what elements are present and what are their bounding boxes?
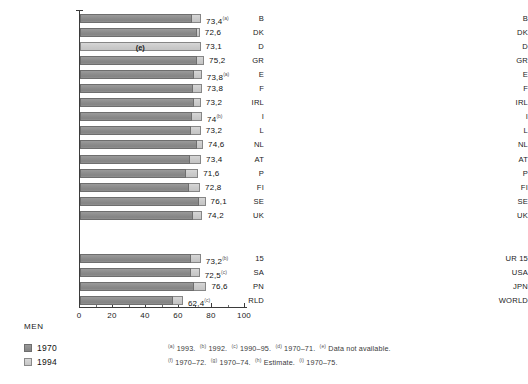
- bar-world: [80, 296, 183, 305]
- bar-segment-1970: [80, 84, 193, 93]
- bar-segment-1970: [80, 155, 190, 164]
- category-label-gr: GR: [189, 55, 528, 66]
- bar-irl: [80, 98, 201, 107]
- bar-nl: [80, 140, 203, 149]
- chart-row: UK79,4: [264, 210, 528, 221]
- x-axis-tick-label-60: 60: [166, 311, 190, 320]
- bar-segment-1970: [80, 169, 186, 178]
- bar-segment-1970: [80, 197, 199, 206]
- bar-segment-1994: (e): [80, 42, 201, 51]
- category-label-jpn: JPN: [189, 281, 528, 292]
- chart-row: L79,7: [264, 125, 528, 136]
- bar-usa: [80, 268, 200, 277]
- chart-row: E81,1(a): [264, 69, 528, 80]
- category-label-fi: FI: [189, 182, 528, 193]
- bar-segment-1970: [80, 112, 192, 121]
- bar-segment-1970: [80, 282, 194, 291]
- chart-row: SE81,4: [264, 196, 528, 207]
- category-label-f: F: [189, 83, 528, 94]
- y-axis-top-cap: [76, 10, 83, 11]
- chart-row: NL80,3: [264, 139, 528, 150]
- legend-label-1970: 1970: [37, 343, 57, 353]
- chart-row: P78,6: [264, 168, 528, 179]
- bar-eur-15: [80, 254, 201, 263]
- category-label-world: WORLD: [189, 295, 528, 306]
- category-label-b: B: [189, 13, 528, 24]
- footnote-f: (f) 1970–72.: [168, 358, 211, 367]
- bar-segment-1970: [80, 70, 194, 79]
- chart-row: B80,1(a): [264, 13, 528, 24]
- chart-row: WORLD66,5(c): [264, 295, 528, 306]
- footnote-d: (d) 1970–71.: [275, 344, 319, 353]
- bar-segment-1970: [80, 211, 193, 220]
- footnote-i: (i) 1970–75.: [299, 358, 339, 367]
- chart-row: USA79,3(d): [264, 267, 528, 278]
- bar-dk: [80, 28, 200, 37]
- bar-segment-1970: [80, 254, 191, 263]
- bar-segment-1970: [80, 28, 197, 37]
- bar-b: [80, 14, 201, 23]
- chart-figure: 020406080100B73,4(a)DK72,6D(e)73,1GR75,2…: [0, 0, 528, 384]
- legend-swatch-1994: [24, 358, 32, 366]
- category-label-p: P: [189, 168, 528, 179]
- footnote-a: (a) 1993.: [168, 344, 200, 353]
- bar-e: [80, 70, 202, 79]
- category-label-l: L: [189, 125, 528, 136]
- bar-segment-1970: [80, 296, 173, 305]
- bar-segment-1970: [80, 268, 191, 277]
- legend-item-1970[interactable]: 1970: [24, 342, 57, 353]
- panel-caption-men: MEN: [24, 322, 44, 331]
- category-label-at: AT: [189, 154, 528, 165]
- category-label-nl: NL: [189, 139, 528, 150]
- bar-uk: [80, 211, 202, 220]
- x-axis-tick-label-40: 40: [133, 311, 157, 320]
- bar-p: [80, 169, 198, 178]
- bar-segment-1970: [80, 98, 194, 107]
- footnote-b: (b) 1992.: [200, 344, 232, 353]
- estimate-marker: (e): [81, 43, 200, 52]
- legend-item-1994[interactable]: 1994: [24, 356, 57, 367]
- footnote-e: (e) Data not available.: [320, 344, 393, 353]
- bar-jpn: [80, 282, 206, 291]
- chart-row: JPN83: [264, 281, 528, 292]
- category-label-dk: DK: [189, 27, 528, 38]
- x-axis-tick-label-100: 100: [232, 311, 256, 320]
- category-label-i: I: [189, 111, 528, 122]
- bar-segment-1970: [80, 14, 192, 23]
- chart-row: AT79,7: [264, 154, 528, 165]
- bar-at: [80, 155, 201, 164]
- category-label-irl: IRL: [189, 97, 528, 108]
- bar-segment-1970: [80, 126, 191, 135]
- chart-row: FI80,1: [264, 182, 528, 193]
- bar-segment-1970: [80, 140, 197, 149]
- legend-label-1994: 1994: [37, 357, 57, 367]
- footnote-h: (h) Estimate.: [255, 358, 299, 367]
- category-label-eur-15: UR 15: [189, 253, 528, 264]
- category-label-e: E: [189, 69, 528, 80]
- bar-segment-1970: [80, 183, 189, 192]
- category-label-d: D: [189, 41, 528, 52]
- legend-swatch-1970: [24, 344, 32, 352]
- x-axis-line: [79, 307, 247, 308]
- x-axis-tick-label-20: 20: [100, 311, 124, 320]
- category-label-se: SE: [189, 196, 528, 207]
- bar-l: [80, 126, 201, 135]
- x-axis-tick-label-0: 0: [67, 311, 91, 320]
- bar-se: [80, 197, 206, 206]
- bar-i: [80, 112, 202, 121]
- chart-panel-women: 020406080100B80,1(a)DK77,8D(e)79,6GR80,2…: [264, 0, 528, 384]
- bar-d: (e): [80, 42, 201, 51]
- x-axis-tick-label-80: 80: [199, 311, 223, 320]
- bar-segment-1970: [80, 56, 197, 65]
- chart-row: GR80,2: [264, 55, 528, 66]
- chart-row: DK77,8: [264, 27, 528, 38]
- category-label-uk: UK: [189, 210, 528, 221]
- chart-row: IRL78,7: [264, 97, 528, 108]
- category-label-usa: USA: [189, 267, 528, 278]
- chart-row: I80,6(b): [264, 111, 528, 122]
- bar-f: [80, 84, 202, 93]
- chart-row: F81,9: [264, 83, 528, 94]
- chart-row: UR 1579,9(b): [264, 253, 528, 264]
- chart-footnotes: (a) 1993. (b) 1992. (c) 1990–95. (d) 197…: [168, 341, 518, 368]
- chart-row: D(e)79,6: [264, 41, 528, 52]
